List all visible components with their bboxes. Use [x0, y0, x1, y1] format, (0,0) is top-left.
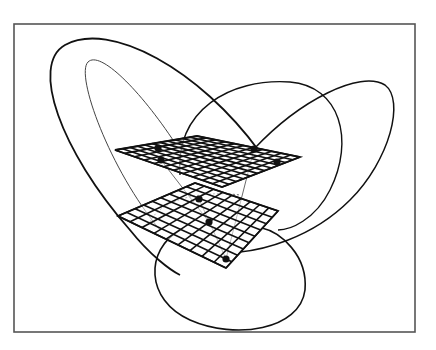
point-marker — [273, 158, 280, 165]
diagram-canvas — [0, 0, 436, 350]
point-marker — [195, 195, 202, 202]
upper-plane — [115, 136, 300, 187]
grid-planes — [115, 136, 300, 268]
point-marker — [222, 255, 229, 262]
point-marker — [250, 145, 257, 152]
point-marker — [205, 218, 212, 225]
diagram-svg — [0, 0, 436, 350]
point-marker — [154, 144, 161, 151]
point-marker — [157, 156, 164, 163]
lower-plane — [118, 183, 278, 268]
